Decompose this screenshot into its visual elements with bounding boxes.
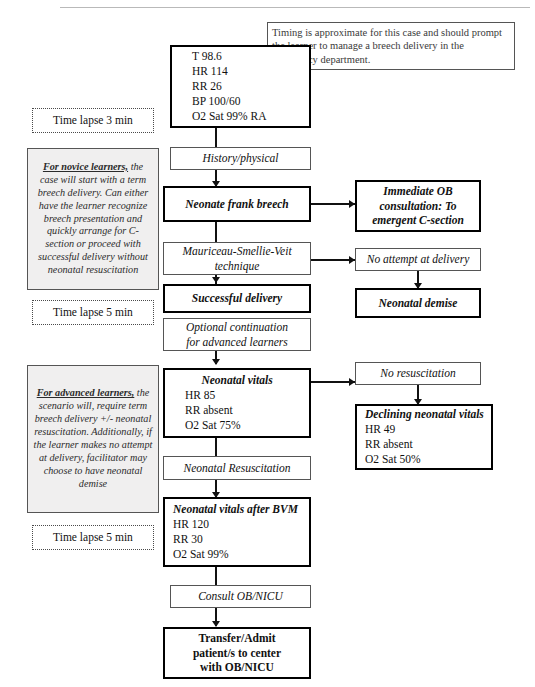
consult-label: Consult OB/NICU <box>175 589 306 604</box>
connector-vitals-to-resus <box>215 438 217 456</box>
flowchart-canvas: Timing is approximate for this case and … <box>0 0 535 687</box>
declining-vitals-box: Declining neonatal vitals HR 49 RR absen… <box>355 404 493 470</box>
initial-vitals-line-5: O2 Sat 99% RA <box>176 109 305 124</box>
optional-continuation-box: Optional continuation for advanced learn… <box>163 318 311 351</box>
initial-vitals-line-4: BP 100/60 <box>176 94 305 109</box>
neonate-frank-breech-label: Neonate frank breech <box>169 197 305 212</box>
no-attempt-label: No attempt at delivery <box>360 252 476 267</box>
neonatal-resuscitation-label: Neonatal Resuscitation <box>168 461 306 476</box>
vitals-after-bvm-line-3: O2 Sat 99% <box>169 547 305 562</box>
declining-vitals-line-1: HR 49 <box>361 422 487 437</box>
neonatal-vitals-title: Neonatal vitals <box>169 373 305 388</box>
optional-continuation-line-1: Optional continuation <box>168 320 306 335</box>
declining-vitals-title: Declining neonatal vitals <box>361 407 487 422</box>
novice-annotation-body: the case will start with a term breech d… <box>38 161 149 276</box>
initial-vitals-line-1: T 98.6 <box>176 49 305 64</box>
connector-vitals-to-history <box>215 128 217 147</box>
arrow-optional-to-neonatal-vitals <box>212 359 220 365</box>
vitals-after-bvm-line-1: HR 120 <box>169 517 305 532</box>
consult-box: Consult OB/NICU <box>170 585 311 608</box>
declining-vitals-line-2: RR absent <box>361 437 487 452</box>
neonatal-resuscitation-box: Neonatal Resuscitation <box>163 456 311 480</box>
successful-delivery-label: Successful delivery <box>169 291 305 306</box>
novice-annotation-heading: For novice learners, <box>43 161 128 172</box>
vitals-after-bvm-line-2: RR 30 <box>169 532 305 547</box>
no-attempt-box: No attempt at delivery <box>355 248 481 271</box>
immediate-ob-box: Immediate OB consultation: To emergent C… <box>355 180 481 232</box>
successful-delivery-box: Successful delivery <box>163 284 311 313</box>
time-lapse-2-label: Time lapse 5 min <box>37 305 149 320</box>
time-lapse-1-box: Time lapse 3 min <box>32 108 154 133</box>
novice-annotation-box: For novice learners, the case will start… <box>27 148 159 290</box>
advanced-annotation-box: For advanced learners, the scenario will… <box>27 365 159 513</box>
transfer-admit-line-3: with OB/NICU <box>169 660 305 675</box>
declining-vitals-line-3: O2 Sat 50% <box>361 452 487 467</box>
connector-bvm-to-consult <box>215 567 217 585</box>
vitals-after-bvm-title: Neonatal vitals after BVM <box>169 502 305 517</box>
immediate-ob-line-2: consultation: To <box>361 199 475 214</box>
initial-vitals-box: T 98.6 HR 114 RR 26 BP 100/60 O2 Sat 99%… <box>170 45 311 128</box>
transfer-admit-line-2: patient/s to center <box>169 646 305 661</box>
neonatal-demise-label: Neonatal demise <box>361 296 475 311</box>
transfer-admit-box: Transfer/Admit patient/s to center with … <box>163 627 311 679</box>
neonatal-vitals-line-3: O2 Sat 75% <box>169 418 305 433</box>
advanced-annotation-text: For advanced learners, the scenario will… <box>33 387 153 491</box>
neonatal-demise-box: Neonatal demise <box>355 288 481 318</box>
time-lapse-3-label: Time lapse 5 min <box>37 530 149 545</box>
history-physical-label: History/physical <box>175 151 306 166</box>
optional-continuation-line-2: for advanced learners <box>168 335 306 350</box>
msv-technique-box: Mauriceau-Smellie-Veit technique <box>163 242 311 275</box>
scan-artifact-rule <box>60 7 530 8</box>
vitals-after-bvm-box: Neonatal vitals after BVM HR 120 RR 30 O… <box>163 497 311 567</box>
history-physical-box: History/physical <box>170 147 311 170</box>
no-resuscitation-box: No resuscitation <box>355 362 481 385</box>
advanced-annotation-body: the scenario will, require term breech d… <box>34 387 153 489</box>
initial-vitals-line-2: HR 114 <box>176 64 305 79</box>
transfer-admit-line-1: Transfer/Admit <box>169 631 305 646</box>
neonatal-vitals-box: Neonatal vitals HR 85 RR absent O2 Sat 7… <box>163 368 311 438</box>
immediate-ob-line-3: emergent C-section <box>361 213 475 228</box>
arrow-msv-to-success <box>212 277 220 283</box>
time-lapse-3-box: Time lapse 5 min <box>32 525 154 550</box>
neonate-frank-breech-box: Neonate frank breech <box>163 186 311 222</box>
no-resuscitation-label: No resuscitation <box>360 366 476 381</box>
time-lapse-1-label: Time lapse 3 min <box>37 113 149 128</box>
novice-annotation-text: For novice learners, the case will start… <box>33 161 153 278</box>
neonatal-vitals-line-1: HR 85 <box>169 388 305 403</box>
connector-breech-to-msv <box>215 222 217 242</box>
msv-technique-line-2: technique <box>168 259 306 274</box>
immediate-ob-line-1: Immediate OB <box>361 184 475 199</box>
advanced-annotation-heading: For advanced learners, <box>37 387 135 398</box>
neonatal-vitals-line-2: RR absent <box>169 403 305 418</box>
initial-vitals-line-3: RR 26 <box>176 79 305 94</box>
time-lapse-2-box: Time lapse 5 min <box>32 300 154 325</box>
msv-technique-line-1: Mauriceau-Smellie-Veit <box>168 244 306 259</box>
